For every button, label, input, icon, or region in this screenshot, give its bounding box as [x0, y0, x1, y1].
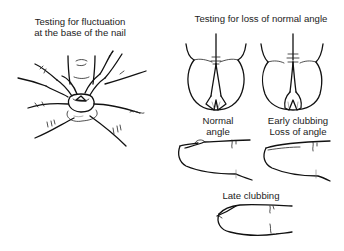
early-clubbing-nail-front-drawing — [261, 34, 323, 110]
artist-signature — [130, 111, 144, 113]
illustration-canvas — [0, 0, 344, 251]
normal-finger-side-drawing — [179, 140, 252, 180]
early-clubbing-finger-side-drawing — [264, 141, 330, 181]
fluctuation-hands-drawing — [18, 51, 146, 146]
normal-nail-front-drawing — [186, 34, 246, 110]
late-clubbing-finger-side-drawing — [217, 205, 292, 236]
